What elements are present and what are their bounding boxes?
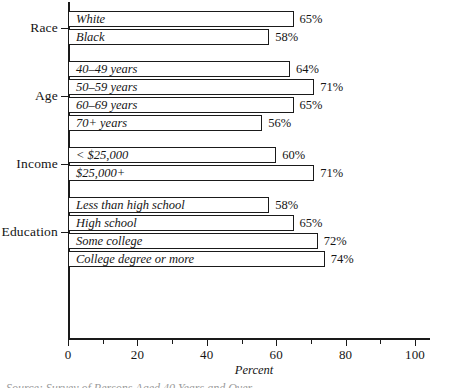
bar: College degree or more <box>68 251 325 267</box>
x-tick-label-60: 60 <box>256 347 296 363</box>
bar: Black <box>68 29 269 45</box>
bar-label: College degree or more <box>76 253 194 266</box>
group-label-education: Education <box>0 225 58 239</box>
bar: 40–49 years <box>68 61 290 77</box>
bar-chart: 020406080100 Percent White65%Black58%Rac… <box>0 0 450 388</box>
group-tick <box>61 232 68 233</box>
bar: High school <box>68 215 294 231</box>
group-label-income: Income <box>0 157 58 171</box>
bar-value-label: 58% <box>275 31 298 44</box>
x-tick-label-40: 40 <box>187 347 227 363</box>
x-axis-title-text: Percent <box>177 363 273 377</box>
bar-value-label: 60% <box>282 149 305 162</box>
bar-value-label: 71% <box>320 167 343 180</box>
group-tick <box>61 96 68 97</box>
bar-label: $25,000+ <box>76 167 125 180</box>
bar-value-label: 65% <box>300 13 323 26</box>
bar: Less than high school <box>68 197 269 213</box>
bar-label: White <box>76 13 105 26</box>
bar: 50–59 years <box>68 79 314 95</box>
bar-label: 40–49 years <box>76 63 137 76</box>
x-minor-tick-30 <box>172 340 173 344</box>
bar: < $25,000 <box>68 147 276 163</box>
x-tick-label-100: 100 <box>395 347 435 363</box>
group-tick <box>61 164 68 165</box>
x-tick-label-80: 80 <box>326 347 366 363</box>
bar-value-label: 56% <box>268 117 291 130</box>
bar-label: 60–69 years <box>76 99 137 112</box>
bar-label: Black <box>76 31 104 44</box>
bar-label: 50–59 years <box>76 81 137 94</box>
bar-value-label: 74% <box>331 253 354 266</box>
x-tick-40 <box>207 340 208 346</box>
bar: $25,000+ <box>68 165 314 181</box>
figure-caption: Source: Survey of Persons Aged 40 Years … <box>6 381 446 388</box>
x-tick-20 <box>137 340 138 346</box>
x-minor-tick-10 <box>103 340 104 344</box>
bar-value-label: 65% <box>300 217 323 230</box>
bar-value-label: 72% <box>324 235 347 248</box>
bar: 70+ years <box>68 115 262 131</box>
x-tick-80 <box>346 340 347 346</box>
bar-label: High school <box>76 217 137 230</box>
bar: White <box>68 11 294 27</box>
x-tick-label-20: 20 <box>117 347 157 363</box>
group-label-age: Age <box>0 89 58 103</box>
x-axis-line <box>68 338 430 340</box>
x-tick-100 <box>415 340 416 346</box>
x-minor-tick-70 <box>311 340 312 344</box>
group-tick <box>61 28 68 29</box>
bar-label: Less than high school <box>76 199 185 212</box>
x-tick-60 <box>276 340 277 346</box>
group-label-race: Race <box>0 21 58 35</box>
x-tick-label-0: 0 <box>48 347 88 363</box>
x-axis-title: Percent <box>0 363 450 378</box>
bar: Some college <box>68 233 318 249</box>
x-minor-tick-50 <box>242 340 243 344</box>
x-tick-0 <box>68 340 69 346</box>
bar-value-label: 64% <box>296 63 319 76</box>
bar-value-label: 65% <box>300 99 323 112</box>
bar-label: 70+ years <box>76 117 127 130</box>
bar-label: Some college <box>76 235 142 248</box>
bar-value-label: 58% <box>275 199 298 212</box>
bar: 60–69 years <box>68 97 294 113</box>
bar-value-label: 71% <box>320 81 343 94</box>
bar-label: < $25,000 <box>76 149 128 162</box>
x-minor-tick-90 <box>380 340 381 344</box>
